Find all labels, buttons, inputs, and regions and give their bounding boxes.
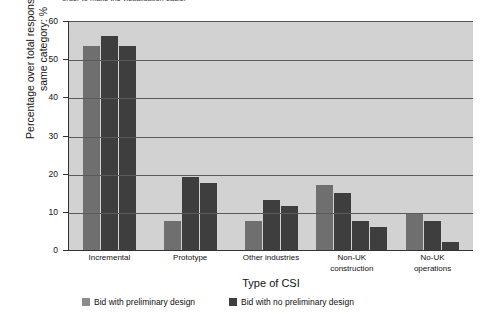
- y-axis-tick-label: 40: [18, 92, 58, 102]
- y-axis-tick-label: 10: [18, 207, 58, 217]
- x-axis-tick-label: Other industries: [231, 253, 312, 264]
- grid-line: [69, 98, 473, 99]
- x-axis-tick-label-line: construction: [311, 264, 392, 275]
- x-axis-tick-label-line: Incremental: [69, 253, 150, 264]
- bar: [352, 221, 369, 250]
- grid-line: [69, 137, 473, 138]
- chart-figure: order to make the visualisation easier P…: [0, 0, 485, 314]
- x-axis-tick-label: Prototype: [150, 253, 231, 264]
- bar: [200, 183, 217, 250]
- y-axis-tick-label: 50: [18, 54, 58, 64]
- bar: [245, 221, 262, 250]
- legend-item[interactable]: Bid with preliminary design: [82, 297, 195, 307]
- x-axis-tick-label-line: Non-UK: [311, 253, 392, 264]
- grid-line: [69, 60, 473, 61]
- bar: [83, 46, 100, 250]
- x-axis-tick-label-line: operations: [392, 264, 473, 275]
- legend-swatch-icon: [82, 298, 90, 306]
- x-axis-tick-label-line: Other industries: [231, 253, 312, 264]
- x-axis-tick-label: Incremental: [69, 253, 150, 264]
- x-axis-tick-labels: IncrementalPrototypeOther industriesNon-…: [69, 253, 473, 279]
- bar: [334, 193, 351, 250]
- x-axis-tick-label-line: Prototype: [150, 253, 231, 264]
- x-axis-title: Type of CSI: [69, 277, 473, 289]
- bar: [424, 221, 441, 250]
- y-axis-tick-label: 30: [18, 131, 58, 141]
- bar: [101, 36, 118, 250]
- bar: [263, 200, 280, 250]
- bar: [442, 242, 459, 250]
- grid-line: [69, 213, 473, 214]
- legend-label: Bid with no preliminary design: [241, 297, 354, 307]
- bar: [370, 227, 387, 250]
- y-axis-tick-label: 20: [18, 169, 58, 179]
- grid-line: [69, 175, 473, 176]
- top-caption: order to make the visualisation easier: [62, 0, 362, 2]
- y-axis-tick-label: 0: [18, 245, 58, 255]
- y-axis-tick-label: 60: [18, 16, 58, 26]
- bar: [164, 221, 181, 250]
- bar: [119, 46, 136, 250]
- bar: [316, 185, 333, 250]
- x-axis-tick-label: Non-UKconstruction: [311, 253, 392, 274]
- x-axis-line: [69, 250, 473, 251]
- y-axis-line: [68, 21, 69, 251]
- x-axis-tick-label: No-UKoperations: [392, 253, 473, 274]
- legend-swatch-icon: [229, 298, 237, 306]
- legend-label: Bid with preliminary design: [94, 297, 195, 307]
- chart-legend: Bid with preliminary designBid with no p…: [69, 297, 473, 311]
- bar: [406, 214, 423, 250]
- x-axis-tick-label-line: No-UK: [392, 253, 473, 264]
- legend-item[interactable]: Bid with no preliminary design: [229, 297, 354, 307]
- plot-area: [69, 21, 473, 250]
